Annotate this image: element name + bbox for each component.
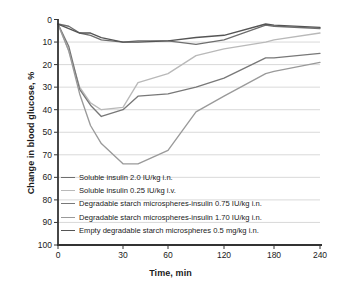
legend-color-swatch <box>61 230 75 231</box>
legend-item: Empty degradable starch microspheres 0.5… <box>61 226 259 235</box>
series-line-2 <box>58 24 320 110</box>
legend-color-swatch <box>61 190 75 191</box>
legend-item-label: Empty degradable starch microspheres 0.5… <box>79 226 259 235</box>
series-line-4 <box>58 24 320 164</box>
data-series-lines <box>58 24 320 164</box>
legend-item-label: Degradable starch microspheres-insulin 0… <box>79 199 262 208</box>
legend-item: Soluble insulin 2.0 IU/kg i.n. <box>61 173 173 182</box>
plot-area <box>0 0 341 288</box>
legend-item-label: Soluble insulin 2.0 IU/kg i.n. <box>79 173 173 182</box>
legend-item: Degradable starch microspheres-insulin 0… <box>61 199 262 208</box>
legend-item-label: Degradable starch microspheres-insulin 1… <box>79 213 262 222</box>
chart-figure: Change in blood glucose, % Time, min 010… <box>0 0 341 288</box>
series-line-1 <box>58 24 320 44</box>
legend-color-swatch <box>61 177 75 178</box>
legend-item: Soluble insulin 0.25 IU/kg i.v. <box>61 186 176 195</box>
gridlines <box>58 42 320 222</box>
legend-color-swatch <box>61 203 75 204</box>
legend-color-swatch <box>61 217 75 218</box>
legend-item: Degradable starch microspheres-insulin 1… <box>61 213 262 222</box>
legend-item-label: Soluble insulin 0.25 IU/kg i.v. <box>79 186 176 195</box>
